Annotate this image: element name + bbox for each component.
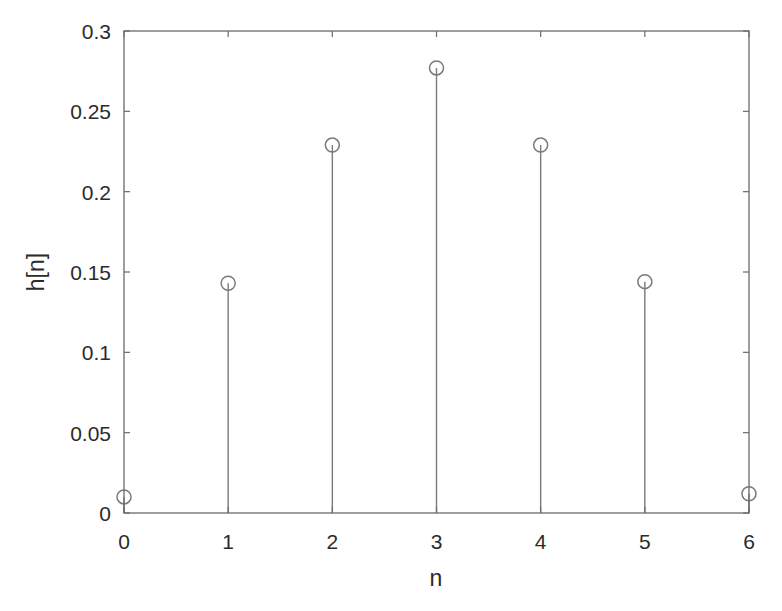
stem-plot: 0123456 00.050.10.150.20.250.3 n h[n]	[0, 0, 782, 611]
y-tick-label: 0.15	[70, 261, 111, 284]
x-tick-label: 6	[743, 530, 755, 553]
x-tick-label: 0	[118, 530, 130, 553]
y-axis-label: h[n]	[23, 253, 49, 291]
x-tick-label: 3	[431, 530, 443, 553]
x-tick-label: 2	[326, 530, 338, 553]
x-tick-label: 4	[535, 530, 547, 553]
stem-point	[534, 138, 548, 513]
y-tick-label: 0.3	[82, 20, 111, 43]
y-tick-label: 0.1	[82, 341, 111, 364]
x-tick-label: 1	[222, 530, 234, 553]
stem-point	[430, 61, 444, 513]
y-axis-ticks: 00.050.10.150.20.250.3	[70, 20, 749, 525]
y-tick-label: 0	[99, 502, 111, 525]
stem-series	[117, 61, 756, 513]
stem-point	[638, 275, 652, 513]
x-tick-label: 5	[639, 530, 651, 553]
y-tick-label: 0.05	[70, 422, 111, 445]
y-tick-label: 0.2	[82, 181, 111, 204]
stem-point	[325, 138, 339, 513]
stem-point	[221, 276, 235, 513]
x-axis-label: n	[430, 565, 443, 591]
y-tick-label: 0.25	[70, 100, 111, 123]
